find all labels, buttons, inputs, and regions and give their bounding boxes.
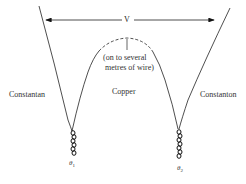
note-line-1: (on to several — [103, 53, 147, 62]
right-copper-wire — [153, 52, 178, 129]
junction1-twist — [71, 131, 76, 156]
thermocouple-diagram: V (on to several metres of wire) Constan… — [0, 0, 246, 184]
voltage-label: V — [122, 15, 132, 24]
note-line-2: metres of wire) — [105, 63, 154, 72]
left-constantan-wire — [39, 6, 72, 131]
right-constantan-wire — [179, 8, 230, 129]
junction1-label: θ1 — [69, 159, 75, 168]
junction2-twist — [177, 130, 182, 159]
left-wire-label: Constantan — [9, 90, 45, 99]
middle-wire-label: Copper — [112, 87, 136, 96]
junction2-label: θ2 — [177, 164, 183, 173]
right-wire-label: Constanton — [200, 90, 236, 99]
left-copper-wire — [72, 51, 99, 131]
dashed-arc — [99, 38, 153, 52]
